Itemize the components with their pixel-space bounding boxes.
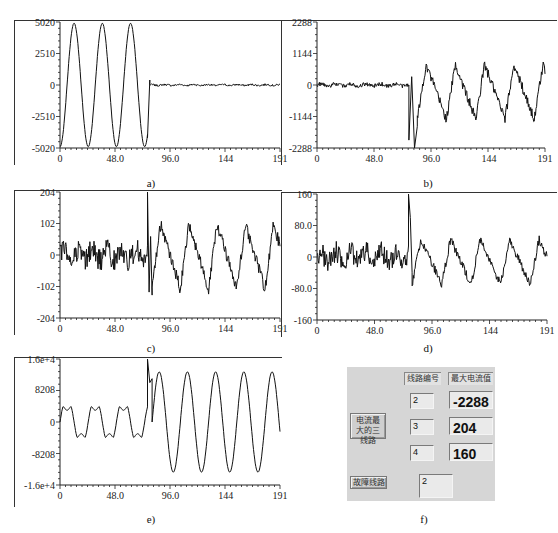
x-tick-label: 48.0 xyxy=(107,153,125,164)
line-number-field-2[interactable]: 3 xyxy=(410,419,434,435)
y-tick-label: -5020 xyxy=(32,143,55,154)
x-tick-label: 191 xyxy=(273,490,288,501)
y-tick-label: 80.0 xyxy=(295,220,313,231)
y-tick-label: -2288 xyxy=(289,143,312,154)
x-tick-label: 96.0 xyxy=(162,153,180,164)
fault-line-panel: 线路编号 最大电流值 2 -2288 3 204 4 160 电流最大的三线路 … xyxy=(347,367,495,501)
y-tick-label: -1144 xyxy=(289,111,312,122)
x-tick-label: 48.0 xyxy=(366,325,384,336)
caption-c: c) xyxy=(131,342,171,354)
x-tick-label: 96.0 xyxy=(162,323,180,334)
line-number-field-3[interactable]: 4 xyxy=(410,445,434,461)
header-line-number: 线路编号 xyxy=(404,372,441,385)
series-line-e xyxy=(60,359,280,472)
x-tick-label: 96.0 xyxy=(424,325,442,336)
x-tick-label: 96.0 xyxy=(162,490,180,501)
y-tick-label: 8208 xyxy=(35,384,55,395)
x-tick-label: 96.0 xyxy=(423,153,441,164)
y-tick-label: 0 xyxy=(307,252,312,263)
x-tick-label: 0 xyxy=(58,153,63,164)
y-tick-label: 204 xyxy=(40,187,55,198)
series-line-a xyxy=(60,23,280,146)
line-number-field-1[interactable]: 2 xyxy=(410,393,434,409)
fault-line-field[interactable]: 2 xyxy=(419,474,453,498)
y-tick-label: 2288 xyxy=(292,17,312,28)
x-tick-label: 0 xyxy=(315,325,320,336)
chart-c: 048.096.01441912041020-102-204 xyxy=(14,190,282,335)
y-tick-label: -80.0 xyxy=(291,283,312,294)
caption-f: f) xyxy=(404,513,444,525)
caption-e: e) xyxy=(131,513,171,525)
chart-d: 048.096.014419116080.00-80.0-160 xyxy=(281,192,557,337)
x-tick-label: 144 xyxy=(218,153,233,164)
x-tick-label: 144 xyxy=(483,325,498,336)
x-tick-label: 144 xyxy=(481,153,496,164)
x-tick-label: 48.0 xyxy=(366,153,384,164)
y-tick-label: 1144 xyxy=(292,48,312,59)
x-tick-label: 48.0 xyxy=(107,323,125,334)
x-tick-label: 0 xyxy=(58,323,63,334)
y-tick-label: 102 xyxy=(40,218,55,229)
caption-d: d) xyxy=(408,342,448,354)
y-tick-label: -8208 xyxy=(32,449,55,460)
x-tick-label: 144 xyxy=(218,490,233,501)
series-line-c xyxy=(60,192,280,295)
y-tick-label: 0 xyxy=(50,250,55,261)
y-tick-label: 0 xyxy=(50,80,55,91)
y-tick-label: -2510 xyxy=(32,111,55,122)
y-tick-label: 5020 xyxy=(35,17,55,28)
x-tick-label: 144 xyxy=(218,323,233,334)
y-tick-label: 1.6e+4 xyxy=(27,354,55,365)
top3-lines-button[interactable]: 电流最大的三线路 xyxy=(350,413,386,439)
x-tick-label: 0 xyxy=(315,153,320,164)
header-max-current: 最大电流值 xyxy=(448,372,493,385)
y-tick-label: -204 xyxy=(37,313,55,324)
fault-line-button[interactable]: 故障线路 xyxy=(350,476,387,489)
max-current-field-3[interactable]: 160 xyxy=(449,443,493,461)
x-tick-label: 0 xyxy=(58,490,63,501)
top3-lines-button-label: 电流最大的三线路 xyxy=(354,416,382,446)
series-line-d xyxy=(317,194,547,287)
y-tick-label: -160 xyxy=(294,315,312,326)
caption-a: a) xyxy=(131,177,171,189)
chart-a: 048.096.0144191502025100-2510-5020 xyxy=(14,20,282,165)
y-tick-label: 160 xyxy=(297,189,312,200)
y-tick-label: 0 xyxy=(50,417,55,428)
x-tick-label: 191 xyxy=(540,325,555,336)
x-tick-label: 191 xyxy=(538,153,553,164)
series-line-b xyxy=(317,62,545,148)
max-current-field-2[interactable]: 204 xyxy=(449,417,493,435)
y-tick-label: 0 xyxy=(307,80,312,91)
y-tick-label: -1.6e+4 xyxy=(24,480,55,491)
caption-b: b) xyxy=(408,177,448,189)
y-tick-label: 2510 xyxy=(35,48,55,59)
y-tick-label: -102 xyxy=(37,281,55,292)
max-current-field-1[interactable]: -2288 xyxy=(449,391,493,409)
chart-e: 048.096.01441911.6e+482080-8208-1.6e+4 xyxy=(14,357,282,507)
chart-b: 048.096.0144191228811440-1144-2288 xyxy=(281,20,557,165)
x-tick-label: 48.0 xyxy=(107,490,125,501)
